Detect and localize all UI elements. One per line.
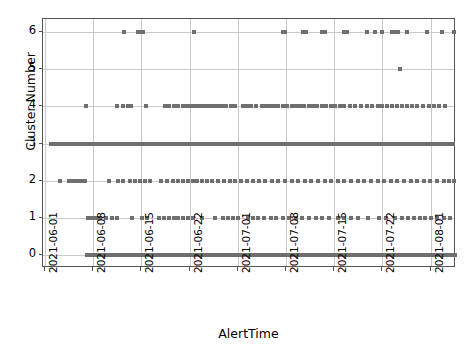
data-point (425, 30, 429, 34)
data-point (181, 179, 185, 183)
data-point (390, 104, 394, 108)
data-point (400, 104, 404, 108)
data-point (121, 179, 125, 183)
data-point (58, 179, 62, 183)
y-tick-label-1: 1 (18, 211, 36, 223)
data-point (314, 216, 318, 220)
data-point (216, 179, 220, 183)
x-tick-mark-4 (237, 267, 238, 271)
data-point (395, 104, 399, 108)
data-point (380, 104, 384, 108)
data-point (300, 216, 304, 220)
data-point (327, 216, 331, 220)
data-point (176, 216, 180, 220)
data-point (222, 179, 226, 183)
data-point (128, 179, 132, 183)
data-point (432, 104, 436, 108)
scatter-chart-figure: Cluster Number 0123456 2021-06-012021-06… (0, 0, 470, 353)
x-tick-label-5: 2021-07-08 (289, 212, 300, 273)
data-point (195, 179, 199, 183)
data-point (304, 30, 308, 34)
data-point (143, 179, 147, 183)
data-point (251, 179, 255, 183)
data-point (315, 104, 319, 108)
data-point (365, 104, 369, 108)
data-point (353, 104, 357, 108)
data-point (320, 216, 324, 220)
data-point (376, 104, 380, 108)
data-point (274, 216, 278, 220)
x-tick-mark-0 (44, 267, 45, 271)
data-point (412, 216, 416, 220)
data-point (422, 179, 426, 183)
y-tick-label-4: 4 (18, 99, 36, 111)
x-tick-mark-1 (92, 267, 93, 271)
data-point (415, 104, 419, 108)
x-tick-label-8: 2021-08-01 (434, 212, 445, 273)
y-tick-label-5: 5 (18, 62, 36, 74)
data-point (440, 30, 444, 34)
data-point (449, 142, 453, 146)
data-point (395, 179, 399, 183)
x-tick-label-4: 2021-07-01 (241, 212, 252, 273)
data-point (402, 179, 406, 183)
data-point (442, 179, 446, 183)
data-point (249, 104, 253, 108)
data-point (122, 30, 126, 34)
x-tick-label-0: 2021-06-01 (48, 212, 59, 273)
data-point (303, 179, 307, 183)
data-point (452, 30, 456, 34)
data-point (281, 216, 285, 220)
data-point (121, 104, 125, 108)
data-point (144, 104, 148, 108)
data-point (323, 179, 327, 183)
data-point (385, 104, 389, 108)
data-point (349, 179, 353, 183)
data-point (257, 179, 261, 183)
data-point (83, 179, 87, 183)
data-point (423, 216, 427, 220)
data-point (405, 30, 409, 34)
data-point (452, 179, 456, 183)
data-point (377, 216, 381, 220)
data-point (316, 179, 320, 183)
data-point (210, 179, 214, 183)
data-point (405, 104, 409, 108)
y-tick-label-6: 6 (18, 25, 36, 37)
data-point (254, 104, 258, 108)
data-point (359, 104, 363, 108)
gridline-y-5 (43, 69, 454, 70)
data-point (176, 179, 180, 183)
data-point (172, 104, 176, 108)
data-point (191, 179, 195, 183)
data-point (366, 216, 370, 220)
data-point (323, 30, 327, 34)
data-point (406, 216, 410, 220)
data-point (159, 179, 163, 183)
data-point (427, 104, 431, 108)
x-tick-label-1: 2021-06-08 (96, 212, 107, 273)
data-point (415, 179, 419, 183)
data-point (380, 30, 384, 34)
data-point (342, 104, 346, 108)
x-tick-label-2: 2021-06-15 (144, 212, 155, 273)
data-point (192, 30, 196, 34)
data-point (186, 216, 190, 220)
data-point (283, 30, 287, 34)
data-point (276, 179, 280, 183)
x-tick-label-6: 2021-07-15 (337, 212, 348, 273)
data-point (115, 104, 119, 108)
data-point (370, 104, 374, 108)
data-point (345, 30, 349, 34)
data-point (233, 179, 237, 183)
data-point (302, 104, 306, 108)
data-point (342, 179, 346, 183)
data-point (369, 179, 373, 183)
data-point (221, 216, 225, 220)
data-point (296, 179, 300, 183)
data-point (362, 179, 366, 183)
x-tick-mark-8 (430, 267, 431, 271)
data-point (373, 30, 377, 34)
x-axis-label: AlertTime (42, 326, 455, 341)
gridline-x-0 (45, 19, 46, 266)
